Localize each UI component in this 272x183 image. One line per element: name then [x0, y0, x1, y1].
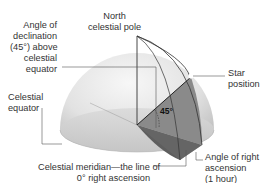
label-right-ascension: Angle of right ascension (1 hour)	[205, 152, 259, 183]
label-north-celestial-pole: North celestial pole	[88, 11, 141, 33]
label-celestial-meridian: Celestial meridian—the line of 0° right …	[38, 162, 150, 183]
label-celestial-equator: Celestial equator	[8, 92, 43, 114]
star-dot	[188, 73, 193, 78]
leader-equator	[42, 108, 62, 144]
label-declination: Angle of declination (45°) above celesti…	[10, 20, 57, 75]
label-star-position: Star position	[228, 68, 260, 90]
angle-45-label: 45°	[160, 106, 173, 116]
leader-right-ascension	[196, 152, 203, 160]
